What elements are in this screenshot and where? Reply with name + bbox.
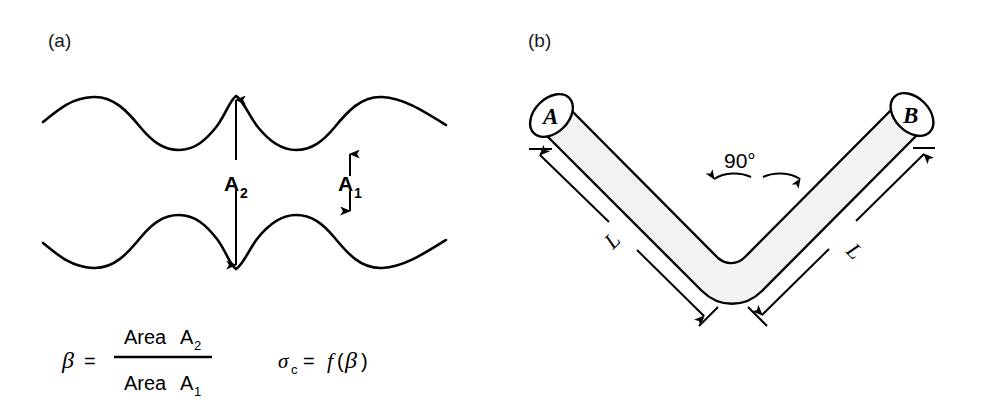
upper-wavy-curve: [43, 96, 446, 150]
length-right-label: L: [841, 237, 868, 264]
denominator-area-symbol: A: [180, 372, 194, 394]
panel-b: (b) A B 90° L: [522, 30, 942, 326]
numerator-area-word: Area: [124, 326, 167, 348]
a2-label-subscript: 2: [240, 185, 248, 201]
panel-a: (a) A 2 A 1 β = Area A 2: [43, 30, 446, 399]
a1-label-subscript: 1: [354, 185, 362, 201]
beta-symbol: β: [61, 347, 74, 373]
panel-b-label: (b): [528, 30, 551, 51]
lower-wavy-curve: [43, 215, 446, 269]
a2-label: A: [224, 172, 239, 195]
end-cap-b-label: B: [902, 103, 918, 128]
length-left-label: L: [598, 227, 625, 254]
length-left-tick-bottom: [699, 307, 718, 326]
sigma-formula: σ c = f ( β ): [278, 347, 368, 377]
sigma-symbol: σ: [278, 349, 290, 373]
panel-a-label: (a): [48, 30, 71, 51]
sigma-subscript: c: [291, 362, 298, 377]
angle-arc-right: [763, 173, 800, 179]
function-open-paren: (: [337, 350, 344, 372]
sigma-equals-sign: =: [303, 350, 315, 372]
figure-root: (a) A 2 A 1 β = Area A 2: [0, 0, 986, 403]
beta-formula: β = Area A 2 Area A 1: [61, 326, 212, 399]
figure-canvas: (a) A 2 A 1 β = Area A 2: [0, 0, 986, 403]
angle-arc-left: [714, 173, 751, 179]
function-symbol: f: [327, 348, 336, 373]
a1-label: A: [338, 172, 353, 195]
numerator-area-symbol: A: [180, 326, 194, 348]
length-right-tick-bottom: [748, 307, 767, 326]
denominator-area-word: Area: [124, 372, 167, 394]
end-cap-a-label: A: [541, 104, 558, 129]
beta-equals-sign: =: [84, 350, 96, 372]
function-close-paren: ): [361, 350, 368, 372]
bent-bar-body: [539, 102, 925, 304]
angle-label: 90°: [724, 149, 756, 172]
function-argument: β: [344, 347, 357, 373]
numerator-area-subscript: 2: [194, 338, 201, 353]
denominator-area-subscript: 1: [194, 384, 201, 399]
